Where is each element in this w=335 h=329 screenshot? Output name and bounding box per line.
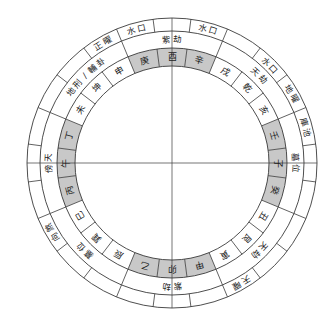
- outer-band-label: 水: [197, 22, 208, 34]
- outer-band-label: 池: [301, 127, 313, 138]
- outer-divider: [189, 294, 191, 307]
- outer-divider: [294, 108, 306, 113]
- mid-band-label: 紫: [173, 281, 182, 291]
- outer-divider: [153, 294, 155, 307]
- mid-divider: [50, 207, 66, 214]
- mountain-label: 辰: [113, 248, 126, 261]
- mid-band-label: 天: [43, 153, 53, 162]
- mountain-divider: [231, 72, 242, 86]
- outer-divider: [28, 180, 41, 182]
- outer-divider: [252, 48, 260, 58]
- mid-divider: [278, 112, 294, 119]
- mountain-label: 午: [60, 159, 71, 168]
- outer-divider: [117, 285, 122, 297]
- mid-divider: [121, 41, 128, 57]
- outer-divider: [303, 180, 316, 182]
- outer-divider: [303, 144, 316, 146]
- outer-divider: [38, 108, 50, 113]
- mountain-divider: [102, 240, 113, 254]
- outer-divider: [294, 214, 306, 219]
- mid-divider: [50, 112, 66, 119]
- outer-band-label: 口: [207, 25, 219, 37]
- mountain-label: 亥: [257, 103, 271, 116]
- mid-divider: [216, 269, 223, 285]
- outer-divider: [223, 29, 228, 41]
- outer-divider: [189, 19, 191, 32]
- mountain-label: 乾: [240, 81, 254, 95]
- outer-band-label: 口: [136, 22, 147, 34]
- mountain-label: 酉: [168, 52, 177, 62]
- mountain-divider: [231, 240, 242, 254]
- mountain-divider: [81, 222, 95, 233]
- mountain-divider: [81, 93, 95, 104]
- mountain-divider: [249, 93, 263, 104]
- outer-divider: [28, 144, 41, 146]
- mid-divider: [278, 207, 294, 214]
- outer-divider: [57, 243, 67, 251]
- outer-divider: [277, 243, 287, 251]
- mountain-label: 申: [112, 64, 125, 78]
- mid-band-label: 墓: [290, 153, 300, 162]
- outer-band-label: 庫: [298, 116, 310, 128]
- mid-divider: [121, 269, 128, 285]
- outer-divider: [38, 214, 50, 219]
- mountain-label: 未: [73, 103, 87, 116]
- mountain-label: 艮: [240, 231, 253, 244]
- outer-divider: [84, 268, 92, 278]
- outer-divider: [84, 48, 92, 58]
- mountain-divider: [102, 72, 113, 86]
- mid-band-label: 傍: [43, 164, 53, 173]
- mountain-divider: [249, 222, 263, 233]
- outer-divider: [57, 75, 67, 83]
- mid-band-label: 位: [290, 164, 300, 173]
- mid-band-label: 劫: [162, 281, 171, 291]
- mountain-label: 卯: [168, 264, 177, 274]
- mountain-label: 寅: [219, 248, 232, 262]
- mountain-label: 巳: [74, 210, 87, 223]
- mid-band-label: 紫: [162, 34, 171, 44]
- mountain-label: 巽: [90, 231, 103, 244]
- outer-divider: [223, 285, 228, 297]
- outer-divider: [277, 75, 287, 83]
- outer-divider: [117, 29, 122, 41]
- mountain-label: 子: [273, 159, 283, 168]
- outer-band-label: 水: [125, 25, 137, 37]
- mid-band-label: 劫: [173, 34, 182, 44]
- compass-diagram: 酉辛戌乾亥壬子癸丑艮寅甲卯乙辰巽巳丙午丁未坤申庚 紫劫天劫墓位天劫紫劫墓位傍天地…: [0, 0, 335, 329]
- mountain-label: 坤: [90, 81, 104, 95]
- outer-divider: [153, 19, 155, 32]
- mountain-label: 戌: [219, 64, 232, 78]
- outer-divider: [252, 268, 260, 278]
- mountain-label: 丑: [257, 210, 270, 223]
- mid-band-label: /: [80, 71, 89, 80]
- mid-divider: [216, 41, 223, 57]
